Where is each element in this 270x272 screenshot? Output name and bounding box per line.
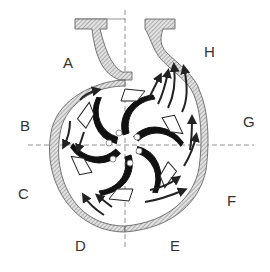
pump-volute-svg [0, 0, 270, 272]
label-g: G [243, 114, 255, 129]
impeller-blade [133, 112, 190, 164]
impeller-blade [65, 126, 122, 178]
pump-diagram [0, 0, 270, 272]
label-f: F [227, 193, 236, 208]
label-a: A [63, 55, 73, 70]
label-b: B [20, 118, 30, 133]
centerlines [28, 10, 254, 248]
label-e: E [170, 238, 180, 253]
label-d: D [75, 238, 86, 253]
label-h: H [204, 44, 215, 59]
label-c: C [18, 186, 29, 201]
